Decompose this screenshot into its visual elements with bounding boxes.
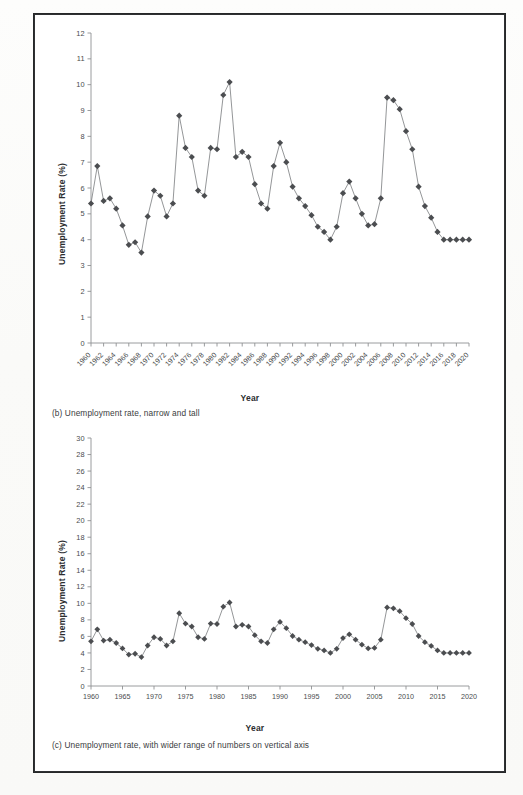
data-point-marker — [453, 237, 459, 243]
data-point-marker — [378, 195, 384, 201]
x-tick-label: 1995 — [304, 692, 320, 701]
x-tick-label: 2005 — [367, 692, 383, 701]
y-tick-label: 6 — [80, 184, 84, 193]
y-tick-label: 9 — [80, 106, 84, 115]
y-tick-label: 8 — [80, 132, 84, 141]
data-point-marker — [214, 621, 220, 627]
data-point-marker — [113, 206, 119, 212]
data-point-marker — [88, 200, 94, 206]
data-point-marker — [126, 242, 132, 248]
y-tick-label: 1 — [80, 313, 84, 322]
data-point-marker — [308, 212, 314, 218]
data-point-marker — [183, 621, 189, 627]
data-point-marker — [94, 163, 100, 169]
data-point-marker — [107, 637, 113, 643]
data-point-marker — [466, 237, 472, 243]
x-tick-label: 1980 — [209, 692, 225, 701]
data-point-marker — [384, 605, 390, 611]
data-point-marker — [265, 640, 271, 646]
y-tick-label: 5 — [80, 209, 84, 218]
data-point-marker — [416, 184, 422, 190]
y-tick-label: 11 — [77, 54, 85, 63]
data-point-marker — [145, 213, 151, 219]
data-point-marker — [208, 621, 214, 627]
y-tick-label: 2 — [80, 287, 84, 296]
data-point-marker — [309, 642, 315, 648]
data-point-marker — [208, 145, 214, 151]
x-tick-label: 2020 — [461, 692, 477, 701]
data-point-marker — [409, 146, 415, 152]
data-point-marker — [365, 222, 371, 228]
data-point-marker — [460, 650, 466, 656]
y-tick-label: 22 — [76, 500, 84, 509]
panel-c-x-axis-label: Year — [35, 723, 475, 733]
data-point-marker — [246, 624, 252, 630]
data-point-marker — [378, 637, 384, 643]
data-point-marker — [454, 650, 460, 656]
data-point-marker — [132, 651, 138, 657]
data-point-marker — [239, 622, 245, 628]
y-tick-label: 2 — [80, 665, 84, 674]
data-point-marker — [321, 648, 327, 654]
data-point-marker — [170, 200, 176, 206]
data-point-marker — [182, 145, 188, 151]
data-point-marker — [214, 146, 220, 152]
data-point-marker — [460, 237, 466, 243]
panel-b-caption: (b) Unemployment rate, narrow and tall — [52, 408, 200, 418]
x-tick-label: 2000 — [335, 692, 351, 701]
data-point-marker — [403, 128, 409, 134]
data-point-marker — [365, 645, 371, 651]
data-point-marker — [384, 94, 390, 100]
y-tick-label: 28 — [76, 450, 84, 459]
x-tick-label: 1965 — [115, 692, 131, 701]
data-point-marker — [227, 79, 233, 85]
data-point-marker — [101, 198, 107, 204]
data-point-marker — [441, 650, 447, 656]
data-point-marker — [88, 638, 94, 644]
data-point-marker — [340, 635, 346, 641]
data-point-marker — [164, 213, 170, 219]
data-point-marker — [390, 97, 396, 103]
y-tick-label: 6 — [80, 632, 84, 641]
data-point-marker — [315, 646, 321, 652]
data-point-marker — [195, 634, 201, 640]
x-tick-label: 1985 — [241, 692, 257, 701]
data-point-marker — [107, 195, 113, 201]
data-point-marker — [189, 624, 195, 630]
data-point-marker — [139, 654, 145, 660]
data-point-marker — [371, 221, 377, 227]
y-tick-label: 24 — [76, 483, 84, 492]
x-tick-label: 1975 — [178, 692, 194, 701]
data-point-marker — [422, 203, 428, 209]
data-point-marker — [353, 195, 359, 201]
data-point-marker — [233, 624, 239, 630]
panel-c-plot: 0246810121416182022242628301960196519701… — [43, 428, 488, 718]
data-point-marker — [372, 645, 378, 651]
panel-c-caption: (c) Unemployment rate, with wider range … — [52, 740, 309, 750]
data-point-marker — [94, 626, 100, 632]
panel-b-plot: 0123456789101112196019621964196619681970… — [43, 23, 488, 393]
x-tick-label: 2010 — [398, 692, 414, 701]
panel-c: Unemployment Rate (%) 024681012141618202… — [35, 420, 504, 770]
y-tick-label: 8 — [80, 615, 84, 624]
data-point-marker — [346, 178, 352, 184]
series-line — [91, 603, 469, 658]
data-point-marker — [220, 604, 226, 610]
data-point-marker — [466, 650, 472, 656]
y-tick-label: 0 — [80, 682, 84, 691]
data-point-marker — [220, 92, 226, 98]
x-tick-label: 2015 — [430, 692, 446, 701]
data-point-marker — [227, 600, 233, 606]
x-tick-label: 1990 — [272, 692, 288, 701]
data-point-marker — [252, 181, 258, 187]
data-point-marker — [334, 224, 340, 230]
y-tick-label: 26 — [76, 467, 84, 476]
data-point-marker — [101, 638, 107, 644]
data-point-marker — [359, 211, 365, 217]
x-tick-label: 2020 — [453, 351, 471, 369]
data-point-marker — [340, 190, 346, 196]
y-tick-label: 20 — [76, 516, 84, 525]
data-point-marker — [447, 650, 453, 656]
data-point-marker — [334, 646, 340, 652]
y-tick-label: 14 — [76, 566, 84, 575]
